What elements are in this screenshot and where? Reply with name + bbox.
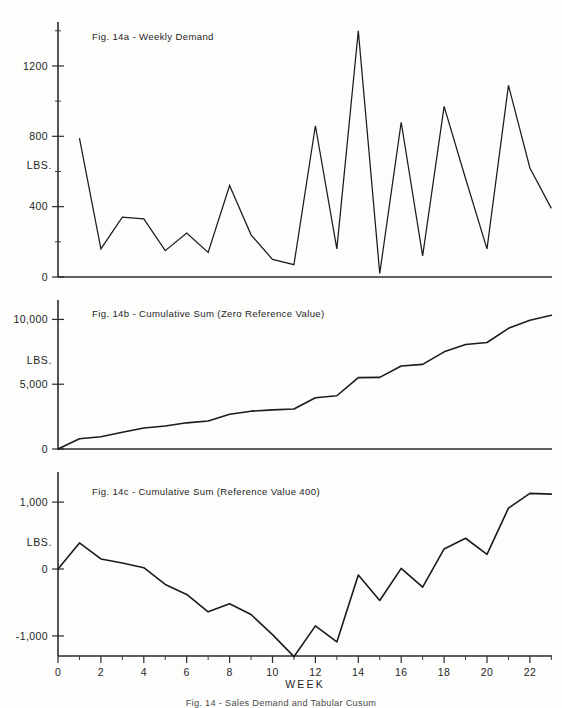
x-tick-label: 12	[309, 666, 321, 678]
panel-cusum-zero: 05,00010,000 Fig. 14b - Cumulative Sum (…	[0, 292, 562, 460]
y-tick-label: 0	[42, 563, 48, 575]
series-cusum-ref400	[58, 493, 551, 656]
chart-14b-svg: 05,00010,000 Fig. 14b - Cumulative Sum (…	[0, 292, 562, 460]
chart-14c-title: Fig. 14c - Cumulative Sum (Reference Val…	[92, 486, 320, 497]
chart-14c-svg: -1,00001,000 0246810121416182022 Fig. 14…	[0, 460, 562, 708]
chart-14a-title: Fig. 14a - Weekly Demand	[92, 31, 214, 42]
figure-caption: Fig. 14 - Sales Demand and Tabular Cusum	[186, 698, 377, 708]
chart-14a-svg: 04008001200 Fig. 14a - Weekly Demand LBS…	[0, 0, 562, 292]
x-axis-name: WEEK	[285, 678, 325, 690]
figure-container: 04008001200 Fig. 14a - Weekly Demand LBS…	[0, 0, 562, 708]
y-axis-unit-14b: LBS.	[27, 354, 52, 366]
x-tick-label: 18	[438, 666, 450, 678]
panel-weekly-demand: 04008001200 Fig. 14a - Weekly Demand LBS…	[0, 0, 562, 292]
y-tick-label: 0	[42, 271, 48, 283]
y-tick-label: 1,000	[20, 496, 48, 508]
x-tick-label: 10	[266, 666, 278, 678]
y-tick-label: -1,000	[16, 630, 48, 642]
y-tick-label: 800	[29, 130, 48, 142]
y-ticks-14b: 05,00010,000	[13, 313, 64, 455]
panel-cusum-ref400: -1,00001,000 0246810121416182022 Fig. 14…	[0, 460, 562, 708]
y-axis-unit-14c: LBS.	[27, 536, 52, 548]
x-tick-label: 14	[352, 666, 364, 678]
y-axis-unit-14a: LBS.	[27, 159, 52, 171]
y-tick-label: 400	[29, 200, 48, 212]
x-tick-label: 0	[55, 666, 61, 678]
y-tick-label: 10,000	[13, 313, 48, 325]
x-tick-label: 22	[524, 666, 536, 678]
x-tick-label: 4	[141, 666, 147, 678]
series-weekly-demand	[79, 31, 551, 274]
y-ticks-14c: -1,00001,000	[16, 496, 64, 642]
x-tick-label: 8	[226, 666, 232, 678]
x-tick-label: 2	[98, 666, 104, 678]
chart-14b-title: Fig. 14b - Cumulative Sum (Zero Referenc…	[92, 308, 325, 319]
x-tick-label: 20	[481, 666, 493, 678]
y-tick-label: 5,000	[20, 378, 48, 390]
series-cusum-zero	[58, 315, 551, 449]
y-tick-label: 1200	[23, 60, 48, 72]
y-tick-label: 0	[42, 443, 48, 455]
x-tick-label: 16	[395, 666, 407, 678]
x-ticks-14c: 0246810121416182022	[55, 656, 551, 678]
x-tick-label: 6	[184, 666, 190, 678]
